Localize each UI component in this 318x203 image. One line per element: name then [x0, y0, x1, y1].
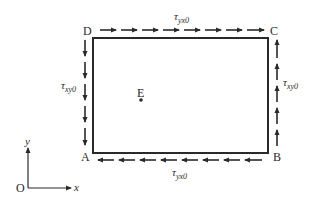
diagram-canvas: D C A B τyx0 τyx0 τxy0 τxy0 E O x y	[0, 0, 318, 203]
y-axis-label: y	[24, 135, 30, 147]
corner-label-c: C	[270, 24, 278, 38]
origin-label: O	[16, 181, 25, 195]
x-axis-label: x	[73, 181, 79, 193]
stress-label-right: τxy0	[283, 76, 298, 91]
corner-label-d: D	[83, 24, 92, 38]
coordinate-axes	[28, 148, 71, 188]
shear-stress-diagram: D C A B τyx0 τyx0 τxy0 τxy0 E O x y	[0, 0, 318, 203]
stress-label-top: τyx0	[174, 10, 189, 25]
stress-label-left: τxy0	[61, 79, 76, 94]
point-e-dot	[139, 98, 143, 102]
element-rectangle	[93, 38, 268, 153]
point-label-e: E	[137, 86, 144, 100]
corner-label-b: B	[273, 150, 281, 164]
stress-label-bottom: τyx0	[172, 166, 187, 181]
corner-label-a: A	[81, 150, 90, 164]
